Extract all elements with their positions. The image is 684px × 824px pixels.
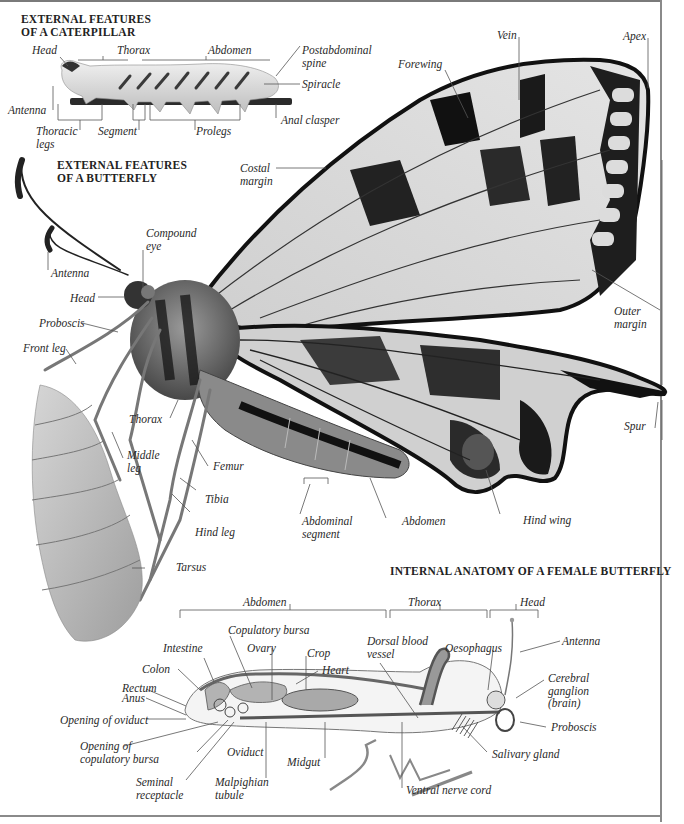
internal-label-ovary: Ovary (247, 642, 276, 655)
butterfly-label-abdominal-segment: Abdominal segment (302, 515, 352, 540)
malpighian-tubule-line-2: tubule (215, 789, 269, 802)
compound-eye-line-2: eye (146, 240, 196, 253)
internal-label-malpighian-tubule: Malpighian tubule (215, 776, 269, 801)
internal-label-antenna: Antenna (562, 635, 600, 648)
outer-margin-line-1: Outer (614, 305, 647, 318)
internal-label-anus: Anus (122, 692, 145, 705)
costal-margin-line-1: Costal (240, 162, 273, 175)
internal-label-oesophagus: Oesophagus (445, 642, 502, 655)
internal-anatomy-title: INTERNAL ANATOMY OF A FEMALE BUTTERFLY (390, 565, 672, 578)
caterpillar-label-thorax: Thorax (117, 44, 150, 57)
butterfly-label-vein: Vein (497, 29, 517, 42)
internal-label-intestine: Intestine (163, 642, 203, 655)
butterfly-label-spur: Spur (624, 420, 646, 433)
butterfly-title-line-1: EXTERNAL FEATURES (57, 159, 187, 172)
seminal-receptacle-line-2: receptacle (136, 789, 183, 802)
thoracic-legs-line-1: Thoracic (36, 125, 78, 138)
internal-label-midgut: Midgut (287, 756, 320, 769)
internal-label-cerebral-ganglion: Cerebral ganglion (brain) (548, 672, 589, 710)
butterfly-title: EXTERNAL FEATURES OF A BUTTERFLY (57, 159, 187, 185)
middle-leg-line-1: Middle (127, 449, 160, 462)
caterpillar-label-prolegs: Prolegs (196, 125, 231, 138)
butterfly-label-compound-eye: Compound eye (146, 227, 196, 252)
internal-label-proboscis: Proboscis (551, 721, 597, 734)
postabdominal-spine-line-1: Postabdominal (302, 44, 372, 57)
dorsal-blood-vessel-line-1: Dorsal blood (367, 635, 428, 648)
caterpillar-label-anal-clasper: Anal clasper (281, 114, 339, 127)
opening-of-copulatory-bursa-line-2: copulatory bursa (80, 753, 159, 766)
costal-margin-line-2: margin (240, 175, 273, 188)
caterpillar-illustration (61, 60, 292, 114)
internal-label-ventral-nerve-cord: Ventral nerve cord (406, 784, 491, 797)
caterpillar-label-segment: Segment (98, 125, 137, 138)
butterfly-label-outer-margin: Outer margin (614, 305, 647, 330)
caterpillar-label-abdomen: Abdomen (208, 44, 251, 57)
internal-label-opening-of-copulatory-bursa: Opening of copulatory bursa (80, 740, 159, 765)
caterpillar-label-head: Head (32, 44, 57, 57)
internal-label-dorsal-blood-vessel: Dorsal blood vessel (367, 635, 428, 660)
middle-leg-line-2: leg (127, 462, 160, 475)
butterfly-label-tarsus: Tarsus (176, 561, 206, 574)
butterfly-label-apex: Apex (623, 30, 646, 43)
internal-label-heart: Heart (322, 664, 349, 677)
caterpillar-title-line-2: OF A CATERPILLAR (21, 26, 151, 39)
outer-margin-line-2: margin (614, 318, 647, 331)
internal-label-opening-of-oviduct: Opening of oviduct (60, 714, 148, 727)
thoracic-legs-line-2: legs (36, 138, 78, 151)
internal-label-salivary-gland: Salivary gland (492, 748, 559, 761)
caterpillar-label-thoracic-legs: Thoracic legs (36, 125, 78, 150)
seminal-receptacle-line-1: Seminal (136, 776, 183, 789)
abdominal-segment-line-2: segment (302, 528, 352, 541)
caterpillar-label-antenna: Antenna (8, 104, 46, 117)
malpighian-tubule-line-1: Malpighian (215, 776, 269, 789)
opening-of-copulatory-bursa-line-1: Opening of (80, 740, 159, 753)
butterfly-label-front-leg: Front leg (23, 342, 66, 355)
cerebral-ganglion-line-2: ganglion (548, 685, 589, 698)
butterfly-label-middle-leg: Middle leg (127, 449, 160, 474)
cerebral-ganglion-line-3: (brain) (548, 697, 589, 710)
butterfly-title-line-2: OF A BUTTERFLY (57, 172, 187, 185)
cerebral-ganglion-line-1: Cerebral (548, 672, 589, 685)
caterpillar-label-spiracle: Spiracle (302, 78, 340, 91)
chrysalis (32, 385, 142, 641)
butterfly-label-abdomen: Abdomen (402, 515, 445, 528)
internal-label-oviduct: Oviduct (227, 746, 263, 759)
butterfly-label-hind-wing: Hind wing (523, 514, 571, 527)
internal-label-copulatory-bursa: Copulatory bursa (228, 624, 309, 637)
dorsal-blood-vessel-line-2: vessel (367, 648, 428, 661)
butterfly-label-head: Head (70, 292, 95, 305)
internal-label-crop: Crop (307, 647, 330, 660)
butterfly-label-hind-leg: Hind leg (195, 526, 235, 539)
internal-label-head: Head (520, 596, 545, 609)
butterfly-label-antenna: Antenna (51, 267, 89, 280)
compound-eye-line-1: Compound (146, 227, 196, 240)
postabdominal-spine-line-2: spine (302, 57, 372, 70)
butterfly-label-forewing: Forewing (398, 58, 442, 71)
caterpillar-title-line-1: EXTERNAL FEATURES (21, 13, 151, 26)
butterfly-label-proboscis: Proboscis (39, 317, 85, 330)
internal-label-abdomen: Abdomen (243, 596, 286, 609)
internal-label-seminal-receptacle: Seminal receptacle (136, 776, 183, 801)
butterfly-label-femur: Femur (213, 460, 244, 473)
abdominal-segment-line-1: Abdominal (302, 515, 352, 528)
butterfly-label-tibia: Tibia (205, 493, 229, 506)
caterpillar-title: EXTERNAL FEATURES OF A CATERPILLAR (21, 13, 151, 39)
butterfly-label-costal-margin: Costal margin (240, 162, 273, 187)
butterfly-label-thorax: Thorax (129, 413, 162, 426)
caterpillar-label-postabdominal-spine: Postabdominal spine (302, 44, 372, 69)
internal-label-colon: Colon (142, 663, 170, 676)
internal-label-thorax: Thorax (408, 596, 441, 609)
